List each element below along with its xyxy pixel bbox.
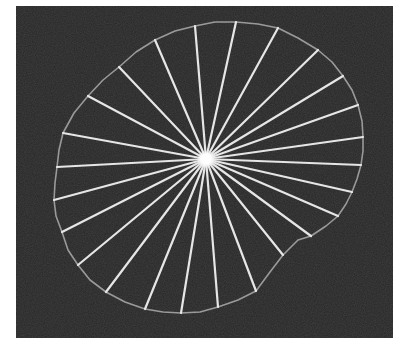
radial-contour-figure — [0, 0, 404, 344]
center-point-glow — [197, 150, 215, 168]
